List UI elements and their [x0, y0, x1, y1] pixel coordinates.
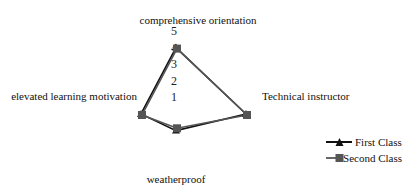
legend-item-second-class: Second Class — [326, 150, 402, 166]
legend-item-first-class: First Class — [326, 134, 402, 150]
square-marker-icon — [138, 111, 146, 119]
triangle-marker-icon — [326, 137, 352, 147]
square-marker-icon — [173, 124, 181, 132]
square-marker-icon — [326, 153, 340, 163]
axis-label-weatherproof: weatherproof — [147, 173, 206, 185]
radial-tick-labels: 12345 — [171, 24, 177, 104]
square-marker-icon — [243, 111, 251, 119]
square-marker-icon — [173, 45, 181, 53]
axis-label-technical-instructor: Technical instructor — [262, 90, 350, 102]
tick-label-2: 2 — [171, 74, 177, 88]
axis-labels: comprehensive orientationTechnical instr… — [11, 14, 350, 185]
series-layer — [137, 44, 251, 134]
series-line-second-class — [142, 49, 247, 129]
legend: First Class Second Class — [326, 134, 402, 166]
legend-label: First Class — [355, 134, 402, 150]
axis-label-elevated-learning-motivation: elevated learning motivation — [11, 90, 137, 102]
legend-label: Second Class — [343, 150, 402, 166]
tick-label-1: 1 — [171, 90, 177, 104]
axis-label-comprehensive-orientation: comprehensive orientation — [140, 14, 257, 26]
tick-label-5: 5 — [171, 24, 177, 38]
